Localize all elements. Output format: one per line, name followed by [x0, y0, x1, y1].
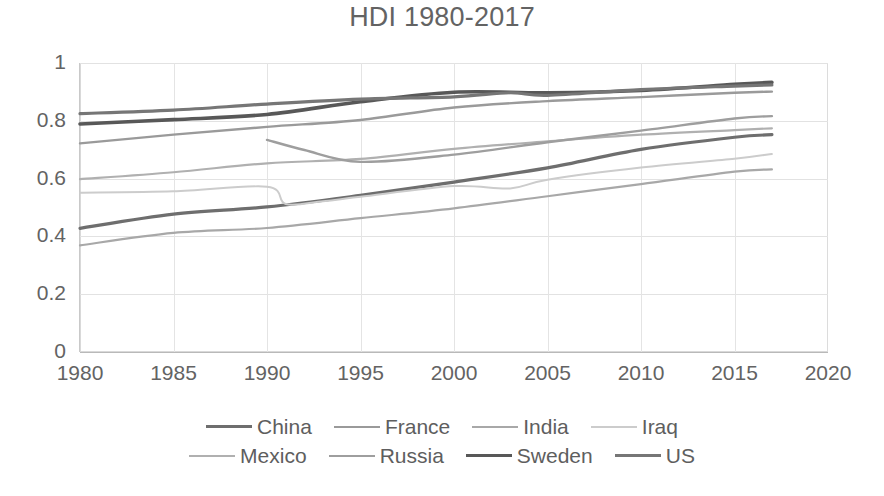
legend-label: Sweden: [517, 445, 593, 466]
y-axis-tick-labels: 00.20.40.60.81: [0, 63, 66, 352]
x-tick-label: 2000: [414, 361, 494, 385]
series-line-mexico: [80, 128, 772, 179]
legend-label: Mexico: [240, 445, 307, 466]
series-line-india: [80, 169, 772, 245]
legend-label: US: [666, 445, 695, 466]
legend-item-mexico[interactable]: Mexico: [189, 445, 307, 466]
legend-item-iraq[interactable]: Iraq: [591, 416, 678, 437]
x-tick-label: 1995: [321, 361, 401, 385]
legend-swatch-china: [206, 425, 252, 428]
x-tick-label: 1980: [40, 361, 120, 385]
legend-swatch-sweden: [466, 454, 512, 457]
y-tick-label: 1: [14, 50, 66, 74]
legend-item-sweden[interactable]: Sweden: [466, 445, 593, 466]
y-tick-label: 0.2: [14, 281, 66, 305]
x-tick-label: 2005: [508, 361, 588, 385]
legend-label: France: [385, 416, 450, 437]
legend-item-india[interactable]: India: [472, 416, 569, 437]
x-axis-tick-labels: 198019851990199520002005201020152020: [80, 361, 828, 393]
legend-swatch-mexico: [189, 455, 235, 457]
plot-area: [80, 63, 828, 352]
legend-swatch-india: [472, 426, 518, 428]
series-line-us: [80, 85, 772, 114]
legend-row: MexicoRussiaSwedenUS: [178, 445, 706, 466]
legend-item-china[interactable]: China: [206, 416, 312, 437]
y-tick-label: 0: [14, 339, 66, 363]
series-lines: [80, 63, 828, 352]
legend-swatch-france: [334, 426, 380, 428]
hdi-line-chart: HDI 1980-2017 00.20.40.60.81 19801985199…: [0, 0, 884, 496]
x-tick-label: 1985: [134, 361, 214, 385]
x-tick-label: 1990: [227, 361, 307, 385]
x-tick-label: 2015: [695, 361, 775, 385]
chart-legend: ChinaFranceIndiaIraq MexicoRussiaSwedenU…: [0, 416, 884, 466]
y-tick-label: 0.4: [14, 223, 66, 247]
y-tick-label: 0.6: [14, 166, 66, 190]
legend-item-us[interactable]: US: [615, 445, 695, 466]
legend-label: India: [523, 416, 569, 437]
legend-item-france[interactable]: France: [334, 416, 450, 437]
x-tick-label: 2010: [601, 361, 681, 385]
x-axis-line: [80, 352, 828, 353]
y-tick-label: 0.8: [14, 108, 66, 132]
legend-label: Iraq: [642, 416, 678, 437]
legend-row: ChinaFranceIndiaIraq: [195, 416, 689, 437]
series-line-russia: [267, 116, 772, 162]
legend-swatch-russia: [329, 455, 375, 457]
legend-item-russia[interactable]: Russia: [329, 445, 444, 466]
x-tick-label: 2020: [788, 361, 868, 385]
legend-swatch-us: [615, 454, 661, 457]
chart-title: HDI 1980-2017: [0, 2, 884, 33]
legend-swatch-iraq: [591, 426, 637, 428]
legend-label: China: [257, 416, 312, 437]
legend-label: Russia: [380, 445, 444, 466]
